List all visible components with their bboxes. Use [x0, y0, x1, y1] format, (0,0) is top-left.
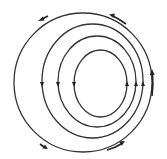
arrow-right-icon	[150, 69, 155, 96]
arrow-up-icon	[125, 81, 129, 86]
outer-flow-arrows	[38, 14, 155, 151]
streamline-outer	[14, 13, 152, 152]
centerline-arrowheads	[40, 81, 145, 87]
streamlines	[14, 13, 152, 152]
arrow-top-left-icon	[38, 16, 48, 21]
arrow-down-icon	[40, 82, 44, 87]
arrow-bottom-right-icon	[107, 141, 125, 150]
streamline-diagram	[0, 0, 167, 159]
streamline-ring-2	[42, 24, 143, 138]
arrow-up-icon	[134, 81, 138, 86]
streamline-inner	[74, 50, 127, 117]
arrow-bottom-left-icon	[40, 144, 48, 149]
arrow-up-icon	[141, 81, 145, 86]
arrow-down-icon	[56, 82, 60, 87]
arrow-down-icon	[72, 82, 76, 87]
